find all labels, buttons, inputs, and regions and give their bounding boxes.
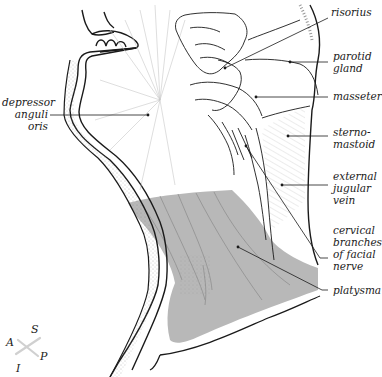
face-profile	[70, 10, 167, 377]
label-platysma: platysma	[333, 284, 381, 296]
compass-superior: S	[31, 323, 39, 336]
compass-anterior: A	[6, 336, 14, 349]
posterior-neck-outline	[308, 5, 320, 265]
label-masseter: masseter	[333, 90, 382, 102]
sternomastoid-hatch	[262, 108, 305, 230]
skin-stipple-band	[64, 60, 158, 377]
label-sternomastoid: sterno- mastoid	[333, 126, 375, 150]
stipple-texture	[180, 255, 210, 295]
label-parotid-gland: parotid gland	[333, 50, 372, 74]
orientation-compass	[16, 338, 40, 356]
label-external-jugular-vein: external jugular vein	[333, 170, 377, 206]
label-depressor-anguli-oris: depressor anguli oris	[2, 96, 48, 132]
label-risorius: risorius	[331, 6, 372, 18]
compass-inferior: I	[16, 362, 20, 375]
label-cervical-branches-facial-nerve: cervical branches of facial nerve	[333, 224, 382, 272]
compass-posterior: P	[40, 350, 47, 363]
